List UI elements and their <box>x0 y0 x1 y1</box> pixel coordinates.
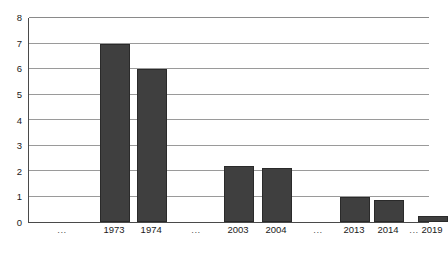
bar-2004 <box>262 168 292 222</box>
x-axis-tick-label: 2019 <box>421 225 442 235</box>
plot-area <box>28 18 429 223</box>
y-axis-tick-label: 5 <box>2 90 22 100</box>
bar-2003 <box>224 166 254 222</box>
x-axis-tick-label: 1974 <box>141 225 162 235</box>
x-axis-tick-label: 2013 <box>343 225 364 235</box>
x-axis-ellipsis-label: ... <box>313 225 322 235</box>
x-axis-tick-label: 2004 <box>265 225 286 235</box>
y-axis-tick-label: 8 <box>2 13 22 23</box>
x-axis-ellipsis-label: ... <box>409 225 418 235</box>
y-axis-tick-label: 7 <box>2 39 22 49</box>
bar-2019 <box>418 216 448 222</box>
x-axis-tick-label: 1973 <box>103 225 124 235</box>
x-axis-tick-label: 2014 <box>377 225 398 235</box>
x-axis-ellipsis-label: ... <box>57 225 66 235</box>
y-axis-tick-label: 6 <box>2 65 22 75</box>
x-axis-tick-labels: ...19731974...20032004...20132014...2019 <box>28 225 428 245</box>
y-axis-tick-label: 3 <box>2 141 22 151</box>
bars-layer <box>29 18 429 222</box>
bar-1973 <box>100 44 130 223</box>
bar-2013 <box>340 197 370 223</box>
x-axis-tick-label: 2003 <box>227 225 248 235</box>
y-axis-tick-label: 2 <box>2 167 22 177</box>
y-axis-tick-label: 1 <box>2 193 22 203</box>
x-axis-ellipsis-label: ... <box>191 225 200 235</box>
y-axis-tick-label: 4 <box>2 116 22 126</box>
bar-2014 <box>374 200 404 222</box>
y-axis-tick-label: 0 <box>2 218 22 228</box>
bar-1974 <box>137 69 167 222</box>
